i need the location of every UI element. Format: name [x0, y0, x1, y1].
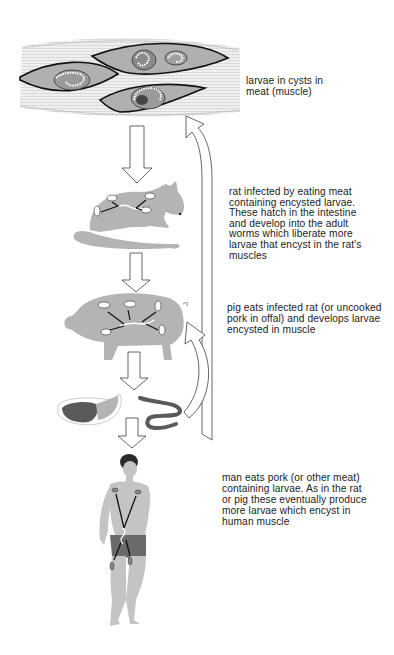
- caption-rat: rat infected by eating meat containing e…: [229, 187, 361, 261]
- rat-icon: [74, 181, 184, 249]
- down-arrow-rat-to-pig: [122, 253, 150, 292]
- pig-icon: [64, 293, 187, 360]
- larva-cyst: [131, 87, 165, 109]
- trichinella-life-cycle-diagram: larvae in cysts in meat (muscle) rat inf…: [0, 0, 394, 655]
- larva-cyst: [132, 50, 156, 70]
- caption-man: man eats pork (or other meat) containing…: [222, 472, 367, 527]
- caption-pig: pig eats infected rat (or uncooked pork …: [227, 302, 382, 335]
- muscle-cyst-icon: [20, 38, 240, 117]
- down-arrow-pork-to-man: [118, 418, 146, 448]
- offal-intestine-icon: [140, 398, 180, 428]
- caption-muscle: larvae in cysts in meat (muscle): [246, 75, 323, 97]
- human-icon: [99, 454, 150, 626]
- down-arrow-pig-to-pork: [120, 352, 148, 390]
- pork-ham-icon: [58, 394, 121, 425]
- larva-cyst: [54, 70, 90, 90]
- larva-cyst: [165, 51, 187, 65]
- down-arrow-muscle-to-rat: [122, 126, 152, 183]
